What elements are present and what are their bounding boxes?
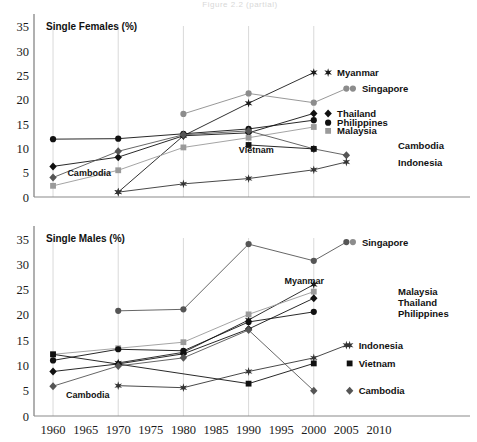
annotation-myanmar-males: Myanmar <box>284 276 324 286</box>
legend-marker-philippines <box>325 120 331 126</box>
figure-root: Figure 2.2 (partial) 05101520253035Singl… <box>0 0 477 442</box>
x-tick-1975: 1975 <box>138 423 163 437</box>
point-vietnam-1960 <box>50 351 56 357</box>
point-singapore-2000 <box>343 239 349 245</box>
point-myanmar-1980 <box>245 99 253 108</box>
point-malaysia-1970 <box>115 167 121 173</box>
series-line-myanmar <box>118 73 314 193</box>
x-tick-2010: 2010 <box>366 423 391 437</box>
x-tick-1960: 1960 <box>41 423 66 437</box>
panel-title-males: Single Males (%) <box>46 233 125 244</box>
point-indonesia-2000 <box>343 158 351 167</box>
point-singapore-1960 <box>180 111 186 117</box>
point-cambodia-1960 <box>49 382 56 390</box>
legend-marker-myanmar <box>324 68 332 77</box>
y-tick-15: 15 <box>17 334 30 348</box>
y-tick-0: 0 <box>23 191 29 205</box>
y-tick-10: 10 <box>17 359 30 373</box>
series-label-indonesia: Indonesia <box>359 340 404 351</box>
series-label-malaysia: Malaysia <box>398 286 438 297</box>
point-philippines-1970 <box>115 136 121 142</box>
legend-marker-cambodia <box>346 387 353 395</box>
x-tick-2005: 2005 <box>334 423 359 437</box>
legend-marker-malaysia <box>325 128 331 134</box>
x-tick-1990: 1990 <box>236 423 261 437</box>
point-singapore-1970 <box>180 306 186 312</box>
series-line-indonesia <box>118 162 346 192</box>
y-tick-25: 25 <box>17 283 30 297</box>
x-tick-1980: 1980 <box>171 423 196 437</box>
point-singapore-1990 <box>343 85 349 91</box>
point-malaysia-2000 <box>311 124 317 130</box>
x-tick-1995: 1995 <box>269 423 294 437</box>
point-vietnam-1980 <box>311 361 317 367</box>
series-label-thailand: Thailand <box>398 297 437 308</box>
x-tick-1965: 1965 <box>73 423 98 437</box>
panel-females: 05101520253035Single Females (%)MyanmarS… <box>17 14 471 205</box>
two-panel-line-chart: 05101520253035Single Females (%)MyanmarS… <box>0 0 477 442</box>
point-malaysia-1960 <box>50 183 56 189</box>
series-line-myanmar <box>118 285 314 363</box>
point-myanmar-1990 <box>310 68 318 77</box>
series-label-indonesia: Indonesia <box>398 157 443 168</box>
legend-marker-singapore <box>350 85 356 91</box>
point-vietnam-1970 <box>246 381 252 387</box>
point-philippines-1960 <box>50 136 56 142</box>
point-malaysia-1980 <box>181 339 187 345</box>
series-label-malaysia: Malaysia <box>337 125 377 136</box>
point-cambodia-1980 <box>180 354 187 362</box>
point-thailand-2000 <box>310 294 317 302</box>
y-tick-5: 5 <box>23 384 29 398</box>
point-malaysia-2000 <box>311 289 317 295</box>
point-thailand-1960 <box>49 368 56 376</box>
point-thailand-1960 <box>49 162 56 170</box>
panel-males: 05101520253035Single Males (%)SingaporeM… <box>17 226 471 424</box>
point-singapore-1970 <box>245 90 251 96</box>
series-label-myanmar: Myanmar <box>337 67 379 78</box>
point-philippines-1980 <box>180 348 186 354</box>
annotation-cambodia-males: Cambodia <box>66 390 111 400</box>
y-tick-10: 10 <box>17 142 30 156</box>
point-malaysia-1980 <box>181 145 187 151</box>
legend-marker-thailand <box>324 109 331 117</box>
point-philippines-1960 <box>50 357 56 363</box>
y-tick-35: 35 <box>17 20 30 34</box>
point-singapore-1990 <box>311 258 317 264</box>
point-singapore-1980 <box>311 100 317 106</box>
x-tick-2000: 2000 <box>301 423 326 437</box>
point-philippines-1970 <box>115 346 121 352</box>
series-label-cambodia: Cambodia <box>359 385 406 396</box>
legend-marker-vietnam <box>347 361 353 367</box>
series-label-philippines: Philippines <box>398 308 449 319</box>
legend-marker-singapore <box>350 239 356 245</box>
annotation-vietnam-females: Vietnam <box>239 145 274 155</box>
y-tick-35: 35 <box>17 233 30 247</box>
point-thailand-2000 <box>310 109 317 117</box>
point-philippines-2000 <box>311 117 317 123</box>
series-line-singapore <box>183 89 346 114</box>
y-tick-30: 30 <box>17 45 30 59</box>
series-label-singapore: Singapore <box>362 83 408 94</box>
y-tick-0: 0 <box>23 410 29 424</box>
y-tick-20: 20 <box>17 93 30 107</box>
annotation-cambodia-females: Cambodia <box>67 168 112 178</box>
point-indonesia-1980 <box>245 367 253 376</box>
y-tick-15: 15 <box>17 118 30 132</box>
point-singapore-1980 <box>245 241 251 247</box>
point-philippines-1990 <box>245 319 251 325</box>
series-label-vietnam: Vietnam <box>359 358 396 369</box>
y-tick-25: 25 <box>17 69 30 83</box>
point-philippines-2000 <box>311 309 317 315</box>
y-tick-30: 30 <box>17 258 30 272</box>
point-singapore-1960 <box>115 308 121 314</box>
series-label-cambodia: Cambodia <box>398 140 445 151</box>
point-malaysia-1990 <box>246 311 252 317</box>
y-tick-5: 5 <box>23 166 29 180</box>
series-label-singapore: Singapore <box>362 237 408 248</box>
point-malaysia-1990 <box>246 135 252 141</box>
x-axis-ticks: 1960196519701975198019851990199520002005… <box>41 423 392 437</box>
x-tick-1970: 1970 <box>106 423 131 437</box>
x-tick-1985: 1985 <box>204 423 229 437</box>
point-vietnam-1970 <box>311 146 317 152</box>
point-cambodia-1960 <box>49 174 56 182</box>
